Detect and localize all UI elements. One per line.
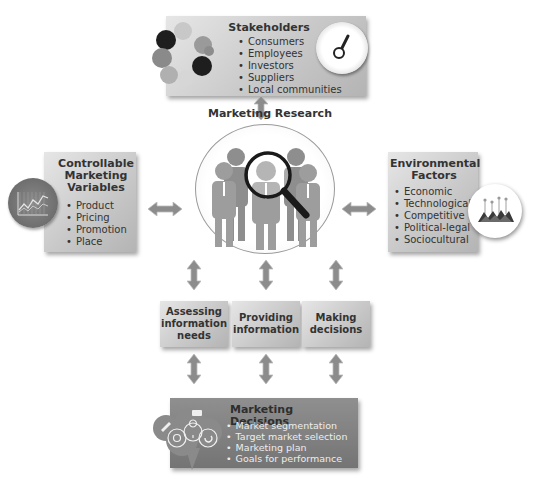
stakeholders-title: Stakeholders [224,22,314,34]
vertical-double-arrow-icon [187,354,201,384]
label-line: decisions [310,324,363,336]
environmental-title: Environmental Factors [390,158,478,182]
people-cluster-icon [152,22,218,88]
speech-cloud-icon [152,408,232,478]
list-item: Marketing plan [226,442,347,453]
list-item: Place [66,236,127,248]
line-chart-icon [8,178,58,228]
marketing-decisions-list: Market segmentation Target market select… [226,420,347,464]
list-item: Goals for performance [226,453,347,464]
providing-information-box: Providing information [232,301,300,347]
label-line: needs [161,330,227,342]
title-line: Variables [58,182,134,194]
label-line: information [233,324,299,336]
gauge-icon [316,22,368,74]
box-label: Assessing information needs [161,306,227,342]
controllable-list: Product Pricing Promotion Place [66,200,127,248]
vertical-double-arrow-icon [259,260,273,290]
list-item: Economic [394,186,471,198]
environmental-list: Economic Technological Competitive Polit… [394,186,471,246]
label-line: Making [310,312,363,324]
people-magnifier-icon [196,125,336,255]
vertical-double-arrow-icon [329,260,343,290]
list-item: Pricing [66,212,127,224]
truck-icon [192,410,202,416]
mountain-chart-icon [468,184,522,238]
box-label: Providing information [233,312,299,336]
horizontal-double-arrow-icon [148,202,182,216]
stakeholders-box: Stakeholders Consumers Employees Investo… [166,16,366,96]
making-decisions-box: Making decisions [302,301,370,347]
controllable-title: Controllable Marketing Variables [58,158,134,194]
vertical-double-arrow-icon [187,260,201,290]
label-line: information [161,318,227,330]
list-item: Technological [394,198,471,210]
list-item: Sociocultural [394,234,471,246]
vertical-double-arrow-icon [259,354,273,384]
label-line: Providing [233,312,299,324]
vertical-double-arrow-icon [329,354,343,384]
title-line: Factors [390,170,478,182]
list-item: Political-legal [394,222,471,234]
marketing-research-ellipse [195,124,335,254]
list-item: Product [66,200,127,212]
list-item: Competitive [394,210,471,222]
list-item: Promotion [66,224,127,236]
marketing-research-title: Marketing Research [200,107,340,120]
list-item: Target market selection [226,431,347,442]
label-line: Assessing [161,306,227,318]
box-label: Making decisions [310,312,363,336]
list-item: Market segmentation [226,420,347,431]
assessing-information-needs-box: Assessing information needs [160,301,228,347]
horizontal-double-arrow-icon [342,202,376,216]
environmental-factors-box: Environmental Factors Economic Technolog… [388,152,478,252]
list-item: Local communities [238,84,342,96]
